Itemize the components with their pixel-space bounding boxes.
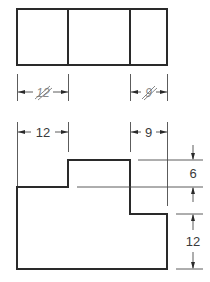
top-view-outline xyxy=(17,9,167,65)
dimension-label-width-right: 9 xyxy=(145,125,152,140)
technical-drawing: 12 9 12 9 6 xyxy=(0,0,210,282)
arrowhead-icon xyxy=(191,153,195,160)
front-view xyxy=(17,160,167,269)
vertical-dimensions: 6 12 xyxy=(77,145,203,269)
dimension-label-width-left: 12 xyxy=(36,125,50,140)
dimension-row-correct: 12 9 xyxy=(18,122,168,206)
arrowhead-icon xyxy=(191,262,195,269)
arrowhead-icon xyxy=(160,130,167,134)
arrowhead-icon xyxy=(191,187,195,194)
arrowhead-icon xyxy=(18,90,25,94)
arrowhead-icon xyxy=(131,130,138,134)
arrowhead-icon xyxy=(61,130,68,134)
dimension-label-height-step: 6 xyxy=(189,166,196,181)
arrowhead-icon xyxy=(191,214,195,221)
arrowhead-icon xyxy=(160,90,167,94)
front-view-profile xyxy=(17,160,167,269)
arrowhead-icon xyxy=(61,90,68,94)
arrowhead-icon xyxy=(131,90,138,94)
dimension-label-height-base: 12 xyxy=(186,234,200,249)
top-view xyxy=(17,9,167,65)
arrowhead-icon xyxy=(18,130,25,134)
dimension-row-struck: 12 9 xyxy=(18,74,168,101)
